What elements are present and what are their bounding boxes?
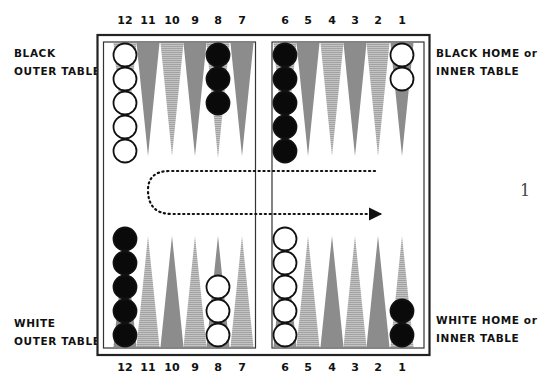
white-checker[interactable] (274, 276, 297, 299)
black-checker[interactable] (114, 228, 137, 251)
white-checker[interactable] (207, 300, 230, 323)
white-checker[interactable] (274, 252, 297, 275)
white-checker[interactable] (114, 140, 137, 163)
white-checker[interactable] (391, 44, 414, 67)
black-checker[interactable] (114, 300, 137, 323)
black-checker[interactable] (274, 44, 297, 67)
black-checker[interactable] (114, 276, 137, 299)
white-checker[interactable] (274, 324, 297, 347)
white-checker[interactable] (114, 116, 137, 139)
black-checker[interactable] (114, 252, 137, 275)
white-checker[interactable] (207, 324, 230, 347)
backgammon-board (0, 0, 543, 386)
black-checker[interactable] (274, 92, 297, 115)
black-checker[interactable] (207, 68, 230, 91)
white-checker[interactable] (114, 68, 137, 91)
white-checker[interactable] (391, 68, 414, 91)
white-checker[interactable] (274, 300, 297, 323)
black-checker[interactable] (274, 140, 297, 163)
black-checker[interactable] (391, 300, 414, 323)
black-checker[interactable] (274, 68, 297, 91)
white-checker[interactable] (114, 44, 137, 67)
white-checker[interactable] (274, 228, 297, 251)
black-checker[interactable] (207, 92, 230, 115)
white-checker[interactable] (207, 276, 230, 299)
black-checker[interactable] (207, 44, 230, 67)
black-checker[interactable] (391, 324, 414, 347)
black-checker[interactable] (274, 116, 297, 139)
white-checker[interactable] (114, 92, 137, 115)
black-checker[interactable] (114, 324, 137, 347)
